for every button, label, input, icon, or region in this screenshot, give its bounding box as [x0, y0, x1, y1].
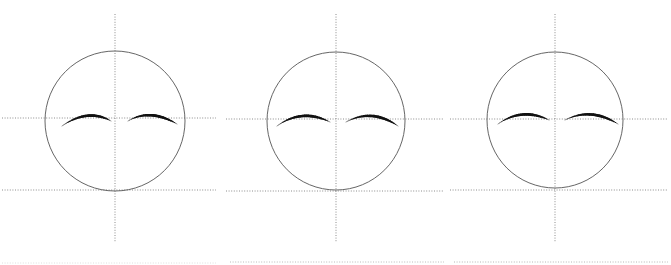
panel-2-right-eyebrow	[346, 116, 398, 126]
panel-3	[448, 0, 671, 265]
panel-1-right-eyebrow	[128, 115, 177, 124]
panel-1	[0, 0, 224, 265]
figure-canvas	[0, 0, 671, 265]
panel-1-left-eyebrow	[62, 116, 111, 126]
panel-1-svg	[0, 0, 224, 265]
panel-2-svg	[224, 0, 448, 265]
panel-3-svg	[448, 0, 671, 265]
panel-2-left-eyebrow	[277, 116, 330, 126]
panel-2	[224, 0, 448, 265]
